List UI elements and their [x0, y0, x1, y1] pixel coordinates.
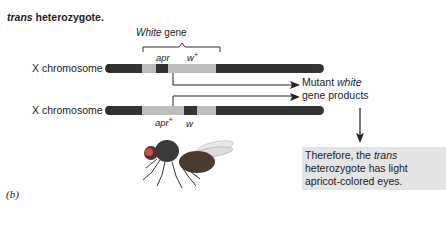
mutant-white-products-label: Mutant white gene products	[302, 76, 369, 102]
chromosome-2-bar	[105, 106, 324, 115]
allele-w-chr2: w	[186, 117, 193, 129]
gene-brace	[143, 43, 220, 52]
allele-name: w	[187, 52, 194, 63]
chromosome-1-bar	[105, 64, 324, 73]
products-italic: white	[337, 76, 362, 88]
products-line2: gene products	[302, 89, 369, 101]
allele-apr-chr1: apr	[156, 51, 170, 63]
arrow-from-chr1	[173, 73, 295, 85]
allele-w-plus-chr1: w+	[187, 51, 198, 63]
allele-name: apr	[155, 117, 169, 128]
conclusion-italic: trans	[374, 149, 397, 161]
arrowhead-2	[290, 93, 300, 101]
products-pre: Mutant	[302, 76, 337, 88]
conclusion-box: Therefore, the trans heterozygote has li…	[302, 147, 446, 190]
allele-apr-plus-chr2: apr+	[155, 116, 173, 128]
panel-label: (b)	[6, 188, 19, 200]
allele-name: apr	[156, 52, 170, 63]
fruit-fly-illustration	[143, 138, 235, 188]
chromosome-2-label: X chromosome 2	[32, 104, 111, 116]
conclusion-pre: Therefore, the	[305, 149, 374, 161]
allele-name: w	[186, 118, 193, 129]
allele-sup: +	[194, 51, 198, 58]
conclusion-post: heterozygote has light apricot-colored e…	[305, 162, 408, 187]
allele-sup: +	[169, 116, 173, 123]
chromosome-1-label: X chromosome 1	[32, 62, 111, 74]
arrow-from-chr2	[173, 96, 295, 106]
